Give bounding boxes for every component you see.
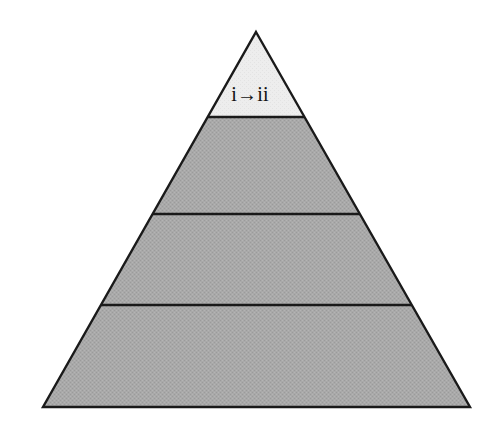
tier-fills bbox=[0, 20, 504, 415]
tier-4-fill bbox=[0, 305, 504, 415]
tier-3-fill bbox=[0, 214, 504, 305]
pyramid-diagram bbox=[0, 0, 504, 435]
tier-2-fill bbox=[0, 117, 504, 214]
tier-1-label: i→ii bbox=[0, 82, 502, 106]
figure-canvas: i→ii bbox=[0, 0, 504, 435]
